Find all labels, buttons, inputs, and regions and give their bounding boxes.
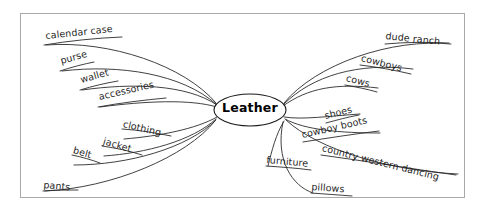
node-label-pants: pants [43, 179, 71, 192]
node-label-pillows: pillows [311, 181, 345, 194]
center-node-label: Leather [214, 100, 286, 115]
branch-curve-accessories [100, 102, 217, 107]
mind-map-diagram: Leather calendar case purse wallet acces… [0, 0, 485, 217]
branch-curve-dude-ranch [284, 43, 451, 103]
